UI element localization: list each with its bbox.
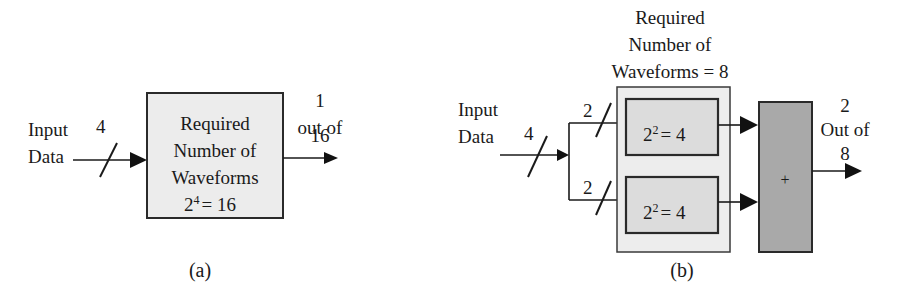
caption-b: (b) bbox=[670, 259, 693, 282]
block-line1: Required bbox=[180, 113, 250, 134]
formula-exponent: 4 bbox=[194, 193, 200, 207]
output-arrow-icon bbox=[845, 163, 862, 179]
top-to-sum-arrow-icon bbox=[740, 116, 758, 134]
output-label-line2: Out of bbox=[820, 119, 870, 140]
bus-width-label: 4 bbox=[524, 123, 534, 144]
diagram-b: Required Number of Waveforms = 8 Input D… bbox=[458, 7, 870, 282]
formula-base: 2 bbox=[184, 194, 194, 215]
branch-bottom-width: 2 bbox=[583, 177, 593, 198]
plus-icon: + bbox=[780, 171, 789, 188]
output-arrow-icon bbox=[324, 152, 338, 164]
caption-a: (a) bbox=[189, 259, 211, 282]
block-line3: Waveforms bbox=[171, 167, 258, 188]
block-line2: Number of bbox=[174, 140, 258, 161]
output-label-line1: 2 bbox=[840, 95, 850, 116]
input-label-line2: Data bbox=[28, 146, 64, 167]
formula-rest: = 4 bbox=[661, 124, 686, 145]
inner-formula-top: 22= 4 bbox=[643, 123, 686, 145]
bus-width-label: 4 bbox=[96, 116, 106, 137]
branch-top-width: 2 bbox=[583, 100, 593, 121]
input-label-line2: Data bbox=[458, 126, 494, 147]
formula-exponent: 2 bbox=[653, 123, 659, 137]
title-line2: Number of bbox=[629, 34, 713, 55]
output-label-line1: 1 bbox=[315, 90, 325, 111]
formula-exponent: 2 bbox=[653, 201, 659, 215]
formula-rest: = 4 bbox=[661, 202, 686, 223]
formula-rest: = 16 bbox=[202, 194, 236, 215]
title-line1: Required bbox=[635, 7, 705, 28]
diagram-a: Input Data 4 Required Number of Waveform… bbox=[28, 90, 343, 282]
output-label-line3: 16 bbox=[311, 125, 330, 146]
input-label-line1: Input bbox=[28, 119, 69, 140]
bottom-to-sum-arrow-icon bbox=[740, 193, 758, 211]
diagram-canvas: Input Data 4 Required Number of Waveform… bbox=[0, 0, 902, 303]
branch-bottom-slash-icon bbox=[596, 181, 611, 215]
input-arrow-icon bbox=[557, 149, 569, 161]
inner-formula-bottom: 22= 4 bbox=[643, 201, 686, 223]
output-label-line3: 8 bbox=[840, 143, 850, 164]
input-label-line1: Input bbox=[458, 99, 499, 120]
branch-top-slash-icon bbox=[596, 103, 611, 137]
title-line3: Waveforms = 8 bbox=[612, 61, 729, 82]
block-formula: 24= 16 bbox=[184, 193, 236, 215]
input-arrow-icon bbox=[130, 152, 147, 168]
formula-base: 2 bbox=[643, 124, 653, 145]
formula-base: 2 bbox=[643, 202, 653, 223]
